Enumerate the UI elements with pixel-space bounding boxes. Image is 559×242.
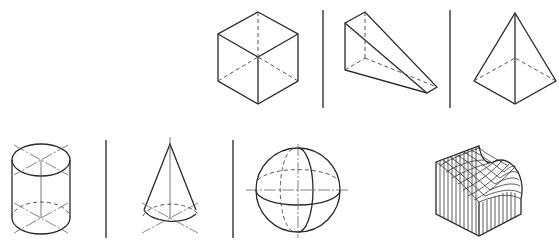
pyramid-figure: [474, 13, 556, 104]
geometric-solids-diagram: [0, 0, 559, 242]
cylinder-figure: [12, 144, 70, 234]
sphere-figure: [246, 144, 350, 238]
wedge-figure: [345, 12, 437, 93]
surface-figure: [436, 146, 522, 236]
cone-figure: [142, 137, 199, 233]
cube-figure: [218, 12, 298, 104]
